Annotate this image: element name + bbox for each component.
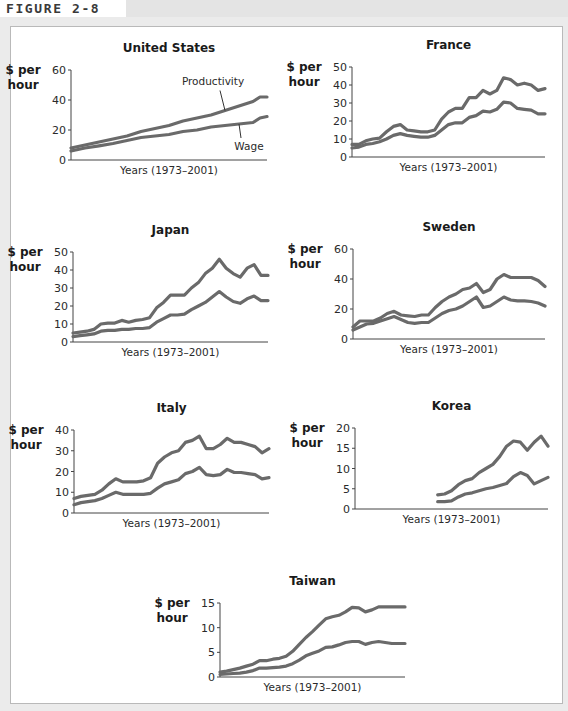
annotation-productivity: Productivity: [182, 75, 244, 87]
x-axis-label: Years (1973–2001): [121, 346, 220, 358]
y-tick-label: 0: [59, 154, 66, 167]
y-axis-label: $ perhour: [5, 63, 40, 92]
y-tick-label: 30: [333, 97, 347, 110]
line-productivity: [220, 607, 405, 672]
y-axis-label: $ perhour: [8, 423, 43, 452]
y-axis-label: $ perhour: [286, 60, 321, 89]
y-tick-label: 30: [55, 445, 69, 458]
y-tick-label: 30: [54, 282, 68, 295]
chart-italy: Italy$ perhour010203040Years (1973–2001): [8, 401, 269, 529]
y-tick-label: 0: [208, 671, 215, 684]
line-wage: [220, 642, 405, 675]
y-tick-label: 0: [340, 151, 347, 164]
axes: [353, 249, 545, 339]
chart-title: Sweden: [422, 220, 475, 234]
chart-title: Korea: [432, 399, 472, 413]
x-axis-label: Years (1973–2001): [399, 161, 498, 173]
chart-title: Italy: [156, 401, 186, 415]
y-tick-label: 20: [333, 115, 347, 128]
y-tick-label: 20: [55, 466, 69, 479]
line-productivity: [73, 259, 268, 333]
y-tick-label: 20: [52, 124, 66, 137]
line-wage: [353, 297, 545, 330]
chart-taiwan: Taiwan$ perhour051015Years (1973–2001): [154, 574, 405, 693]
chart-france: France$ perhour01020304050Years (1973–20…: [286, 38, 545, 173]
y-tick-label: 40: [52, 94, 66, 107]
y-tick-label: 20: [336, 422, 350, 435]
annotation-leader-line: [220, 91, 225, 111]
y-tick-label: 40: [334, 273, 348, 286]
y-axis-label: $ perhour: [7, 245, 42, 274]
y-axis-label: $ perhour: [289, 421, 324, 450]
chart-title: United States: [123, 41, 216, 55]
y-tick-label: 10: [336, 463, 350, 476]
y-tick-label: 60: [52, 64, 66, 77]
y-tick-label: 10: [54, 318, 68, 331]
chart-title: Taiwan: [289, 574, 336, 588]
y-tick-label: 5: [343, 483, 350, 496]
line-productivity: [352, 78, 545, 145]
x-axis-label: Years (1973–2001): [399, 343, 498, 355]
chart-title: France: [426, 38, 471, 52]
y-tick-label: 0: [61, 336, 68, 349]
y-tick-label: 40: [333, 79, 347, 92]
y-tick-label: 40: [54, 264, 68, 277]
x-axis-label: Years (1973–2001): [263, 681, 362, 693]
line-wage: [352, 102, 545, 148]
x-axis-label: Years (1973–2001): [122, 517, 221, 529]
y-tick-label: 60: [334, 243, 348, 256]
y-tick-label: 10: [201, 622, 215, 635]
annotation-leader-line: [239, 124, 241, 138]
y-tick-label: 40: [55, 424, 69, 437]
y-tick-label: 20: [334, 303, 348, 316]
y-axis-label: $ perhour: [154, 596, 189, 625]
y-tick-label: 0: [343, 503, 350, 516]
line-wage: [74, 467, 269, 504]
y-tick-label: 10: [55, 486, 69, 499]
line-productivity: [74, 436, 269, 498]
y-tick-label: 0: [341, 333, 348, 346]
y-tick-label: 50: [54, 246, 68, 259]
y-tick-label: 50: [333, 61, 347, 74]
y-tick-label: 10: [333, 133, 347, 146]
x-axis-label: Years (1973–2001): [119, 164, 218, 176]
small-multiples-chart-grid: United States$ perhour0204060Years (1973…: [0, 0, 568, 711]
chart-korea: Korea$ perhour05101520Years (1973–2001): [289, 399, 548, 525]
line-wage: [73, 292, 268, 337]
y-axis-label: $ perhour: [287, 242, 322, 271]
x-axis-label: Years (1973–2001): [402, 513, 501, 525]
y-tick-label: 15: [201, 597, 215, 610]
chart-title: Japan: [151, 223, 190, 237]
annotation-wage: Wage: [234, 140, 263, 152]
y-tick-label: 0: [62, 507, 69, 520]
y-tick-label: 15: [336, 442, 350, 455]
chart-sweden: Sweden$ perhour0204060Years (1973–2001): [287, 220, 545, 355]
chart-united-states: United States$ perhour0204060Years (1973…: [5, 41, 267, 176]
axes: [355, 428, 548, 509]
y-tick-label: 5: [208, 646, 215, 659]
y-tick-label: 20: [54, 300, 68, 313]
chart-japan: Japan$ perhour01020304050Years (1973–200…: [7, 223, 268, 358]
